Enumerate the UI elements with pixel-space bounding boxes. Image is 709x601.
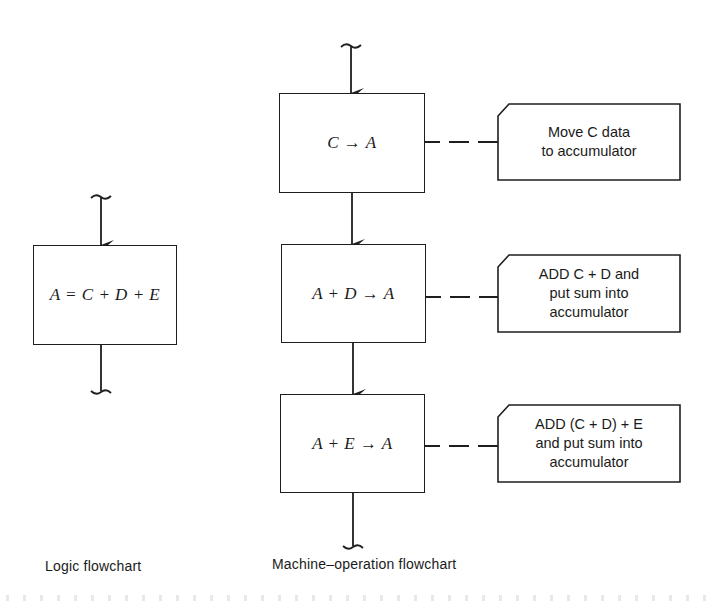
machine-step-1-box: C → A (279, 93, 425, 193)
machine-step-3-box: A + E → A (280, 394, 425, 493)
step-2-label: A + D → A (312, 284, 394, 304)
annotation-step-2: ADD C + D and put sum into accumulator (500, 257, 678, 330)
logic-box-label: A = C + D + E (50, 285, 161, 305)
machine-flowchart-caption: Machine–operation flowchart (272, 556, 456, 572)
step-3-label: A + E → A (312, 434, 393, 454)
annotation-step-1-text: Move C data to accumulator (541, 123, 636, 161)
step-1-label: C → A (327, 133, 376, 153)
cropped-text-line (0, 595, 709, 601)
annotation-step-3-text: ADD (C + D) + E and put sum into accumul… (535, 415, 643, 472)
flowchart-figure: A = C + D + E C → A A + D → A A + E → A … (0, 0, 709, 601)
annotation-step-1: Move C data to accumulator (500, 106, 678, 178)
logic-flowchart-caption: Logic flowchart (45, 558, 141, 574)
annotation-step-3: ADD (C + D) + E and put sum into accumul… (500, 407, 678, 480)
machine-step-2-box: A + D → A (281, 244, 426, 343)
logic-process-box: A = C + D + E (33, 245, 177, 345)
annotation-step-2-text: ADD C + D and put sum into accumulator (539, 265, 639, 322)
